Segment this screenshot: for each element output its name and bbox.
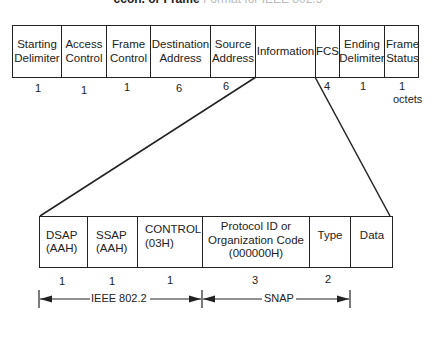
field-data: Data	[351, 217, 393, 267]
field-protocol-id: Protocol ID orOrganization Code(000000H)	[203, 217, 310, 267]
size-ssap: 1	[102, 275, 122, 287]
field-ssap: SSAP(AAH)	[88, 217, 138, 267]
size-protocol-id: 3	[245, 274, 265, 286]
field-dsap: DSAP(AAH)	[40, 217, 88, 267]
size-type: 2	[318, 273, 338, 285]
field-control: CONTROL(03H)	[138, 217, 203, 267]
size-control: 1	[160, 274, 180, 286]
size-dsap: 1	[52, 275, 72, 287]
connector-lines	[0, 0, 436, 347]
span-label-snap: SNAP	[263, 292, 295, 304]
information-field-expansion: DSAP(AAH) SSAP(AAH) CONTROL(03H) Protoco…	[39, 216, 393, 268]
span-label-ieee-802-2: IEEE 802.2	[90, 292, 148, 304]
field-type: Type	[310, 217, 351, 267]
